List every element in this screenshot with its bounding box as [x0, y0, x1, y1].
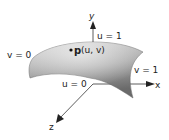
z-axis: [59, 84, 93, 119]
v0-edge-label: v = 0: [7, 50, 32, 60]
x-axis-arrowhead: [146, 81, 155, 87]
y-axis-arrowhead: [90, 21, 96, 29]
z-axis-label: z: [49, 122, 54, 132]
point-args: (u, v): [81, 45, 105, 55]
v1-edge-label: v = 1: [134, 65, 158, 75]
point-marker: [69, 48, 72, 51]
x-axis-label: x: [155, 80, 161, 90]
y-axis-label: y: [88, 11, 95, 21]
u1-edge-label: u = 1: [97, 31, 122, 41]
u0-edge-label: u = 0: [62, 79, 87, 89]
surface-diagram: y x z u = 1 v = 0 v = 1 u = 0 p (u, v): [0, 0, 169, 140]
